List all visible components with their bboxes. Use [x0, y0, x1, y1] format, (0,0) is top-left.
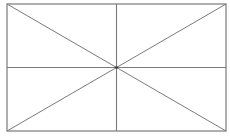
center-point: [115, 66, 118, 69]
rectangle-diagram: [0, 0, 230, 136]
diagram-canvas: [0, 0, 230, 136]
